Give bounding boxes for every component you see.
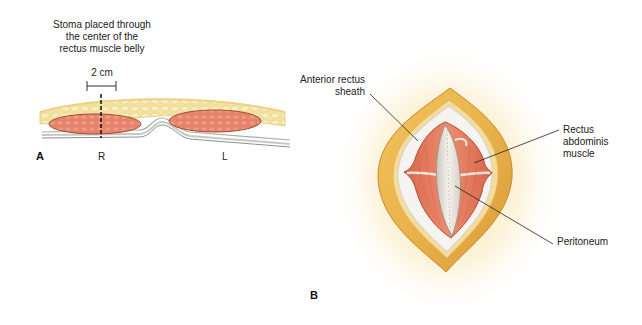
peritoneum-label: Peritoneum: [557, 236, 608, 248]
anterior-sheath-label-line-1: Anterior rectus: [295, 74, 365, 86]
incision-illustration: [0, 0, 642, 325]
rectus-label: Rectus abdominis muscle: [563, 124, 609, 160]
anterior-sheath-label: Anterior rectus sheath: [295, 74, 365, 98]
anterior-sheath-label-line-2: sheath: [295, 86, 365, 98]
rectus-label-line-2: abdominis: [563, 136, 609, 148]
panel-b-letter: B: [310, 289, 318, 301]
rectus-label-line-1: Rectus: [563, 124, 609, 136]
rectus-label-line-3: muscle: [563, 148, 609, 160]
